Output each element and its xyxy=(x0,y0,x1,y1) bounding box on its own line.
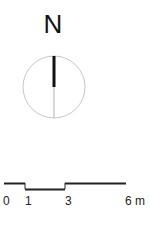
scale-bar xyxy=(4,183,126,190)
compass-icon xyxy=(23,56,85,118)
scale-tick-1: 1 xyxy=(25,194,32,208)
scale-tick-3: 3 xyxy=(65,194,72,208)
scale-tick-6m: 6 m xyxy=(125,194,145,208)
scale-tick-0: 0 xyxy=(3,194,10,208)
